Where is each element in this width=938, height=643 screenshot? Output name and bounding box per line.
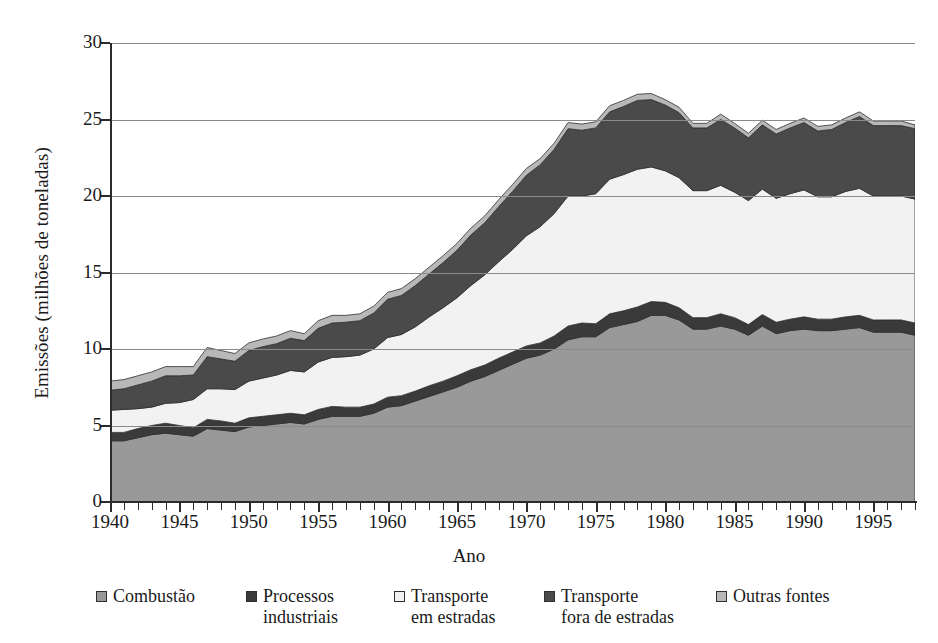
- x-axis-minor-tick: [207, 503, 208, 510]
- y-axis-tick-mark: [101, 501, 110, 503]
- legend-item-outras-fontes[interactable]: Outras fontes: [716, 586, 866, 607]
- x-axis-minor-tick: [221, 503, 222, 510]
- x-axis-minor-tick: [443, 503, 444, 510]
- y-axis-tick-label-wrap: 5: [52, 426, 102, 427]
- x-axis-minor-tick: [901, 503, 902, 510]
- x-axis-minor-tick: [707, 503, 708, 510]
- gridline: [110, 43, 915, 44]
- legend-label-outras-fontes: Outras fontes: [733, 586, 829, 607]
- chart-legend: CombustãoProcessosindustriaisTransportee…: [96, 586, 916, 628]
- legend-label-transporte-em-estradas: Transporteem estradas: [411, 586, 495, 628]
- x-axis-minor-tick: [582, 503, 583, 510]
- x-axis-minor-tick: [166, 503, 167, 510]
- legend-label-line2: fora de estradas: [561, 607, 674, 628]
- legend-swatch-outras-fontes: [716, 591, 727, 602]
- x-axis-tick-label: 1955: [283, 512, 353, 533]
- x-axis-tick-label: 1940: [75, 512, 145, 533]
- legend-swatch-transporte-fora-de-estradas: [544, 591, 555, 602]
- x-axis-minor-tick: [679, 503, 680, 510]
- x-axis-minor-tick: [887, 503, 888, 510]
- legend-label-line1: Combustão: [113, 586, 195, 606]
- y-axis-tick-label-wrap: 15: [52, 273, 102, 274]
- y-axis-tick-label: 15: [68, 262, 102, 281]
- x-axis-tick-label: 1950: [214, 512, 284, 533]
- gridline: [110, 196, 915, 197]
- x-axis-minor-tick: [304, 503, 305, 510]
- x-axis-minor-tick: [915, 503, 916, 510]
- x-axis-minor-tick: [859, 503, 860, 510]
- y-axis-tick-label-wrap: 0: [52, 502, 102, 503]
- x-axis-minor-tick: [263, 503, 264, 510]
- y-axis-tick-mark: [101, 42, 110, 44]
- y-axis-tick-mark: [101, 425, 110, 427]
- legend-label-line1: Transporte: [561, 586, 638, 606]
- x-axis-tick-label: 1945: [144, 512, 214, 533]
- legend-label-line1: Transporte: [411, 586, 488, 606]
- legend-label-combustao: Combustão: [113, 586, 195, 607]
- gridline: [110, 273, 915, 274]
- x-axis-tick-label: 1965: [422, 512, 492, 533]
- legend-label-line1: Processos: [263, 586, 334, 606]
- x-axis-minor-tick: [277, 503, 278, 510]
- x-axis-minor-tick: [513, 503, 514, 510]
- y-axis-title: Emissões (milhões de toneladas): [31, 63, 53, 483]
- y-axis-tick-label: 25: [68, 109, 102, 128]
- legend-label-line2: industriais: [263, 607, 338, 628]
- x-axis-minor-tick: [471, 503, 472, 510]
- y-axis-tick-mark: [101, 272, 110, 274]
- gridline: [110, 426, 915, 427]
- x-axis-minor-tick: [235, 503, 236, 510]
- x-axis-minor-tick: [415, 503, 416, 510]
- y-axis-tick-label: 0: [68, 491, 102, 510]
- legend-label-transporte-fora-de-estradas: Transportefora de estradas: [561, 586, 674, 628]
- y-axis-tick-mark: [101, 195, 110, 197]
- x-axis-minor-tick: [721, 503, 722, 510]
- legend-item-transporte-fora-de-estradas[interactable]: Transportefora de estradas: [544, 586, 716, 628]
- stacked-area-chart-figure: Emissões (milhões de toneladas) 05101520…: [0, 0, 938, 643]
- x-axis-minor-tick: [846, 503, 847, 510]
- x-axis-minor-tick: [610, 503, 611, 510]
- x-axis-minor-tick: [651, 503, 652, 510]
- x-axis-minor-tick: [485, 503, 486, 510]
- x-axis-minor-tick: [748, 503, 749, 510]
- legend-item-processos-industriais[interactable]: Processosindustriais: [246, 586, 394, 628]
- x-axis-tick-label: 1985: [700, 512, 770, 533]
- y-axis-tick-label: 20: [68, 185, 102, 204]
- legend-item-combustao[interactable]: Combustão: [96, 586, 246, 607]
- y-axis-line: [110, 43, 112, 504]
- x-axis-minor-tick: [401, 503, 402, 510]
- x-axis-minor-tick: [374, 503, 375, 510]
- x-axis-minor-tick: [540, 503, 541, 510]
- x-axis-line: [110, 501, 917, 503]
- x-axis-tick-label: 1990: [769, 512, 839, 533]
- x-axis-tick-label: 1970: [491, 512, 561, 533]
- y-axis-tick-label: 5: [68, 415, 102, 434]
- x-axis-minor-tick: [832, 503, 833, 510]
- y-axis-tick-label: 30: [68, 32, 102, 51]
- x-axis-minor-tick: [193, 503, 194, 510]
- x-axis-minor-tick: [290, 503, 291, 510]
- x-axis-minor-tick: [762, 503, 763, 510]
- x-axis-title: Ano: [0, 545, 938, 567]
- x-axis-minor-tick: [138, 503, 139, 510]
- legend-label-processos-industriais: Processosindustriais: [263, 586, 338, 628]
- legend-swatch-combustao: [96, 591, 107, 602]
- x-axis-minor-tick: [124, 503, 125, 510]
- y-axis-tick-mark: [101, 348, 110, 350]
- legend-swatch-transporte-em-estradas: [394, 591, 405, 602]
- x-axis-minor-tick: [790, 503, 791, 510]
- legend-label-line2: em estradas: [411, 607, 495, 628]
- gridline: [110, 349, 915, 350]
- x-axis-minor-tick: [152, 503, 153, 510]
- x-axis-tick-label: 1995: [838, 512, 908, 533]
- y-axis-tick-label-wrap: 20: [52, 196, 102, 197]
- y-axis-tick-mark: [101, 119, 110, 121]
- x-axis-minor-tick: [818, 503, 819, 510]
- x-axis-minor-tick: [332, 503, 333, 510]
- legend-item-transporte-em-estradas[interactable]: Transporteem estradas: [394, 586, 544, 628]
- x-axis-minor-tick: [776, 503, 777, 510]
- x-axis-tick-label: 1960: [353, 512, 423, 533]
- x-axis-tick-label: 1975: [561, 512, 631, 533]
- legend-label-line1: Outras fontes: [733, 586, 829, 606]
- legend-swatch-processos-industriais: [246, 591, 257, 602]
